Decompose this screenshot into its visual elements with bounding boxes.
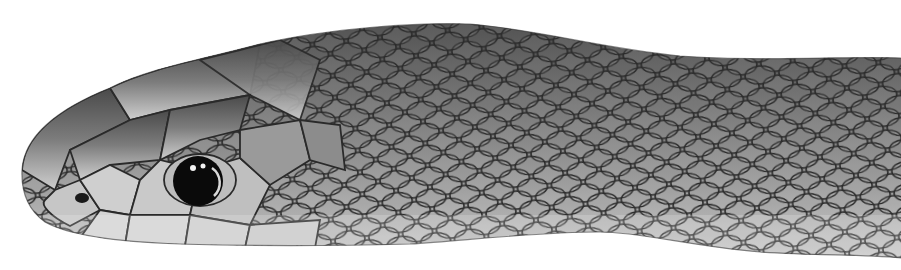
nostril — [75, 193, 89, 203]
snake-body — [0, 0, 901, 270]
snake-eye — [164, 154, 236, 206]
snake-photo — [0, 0, 901, 270]
